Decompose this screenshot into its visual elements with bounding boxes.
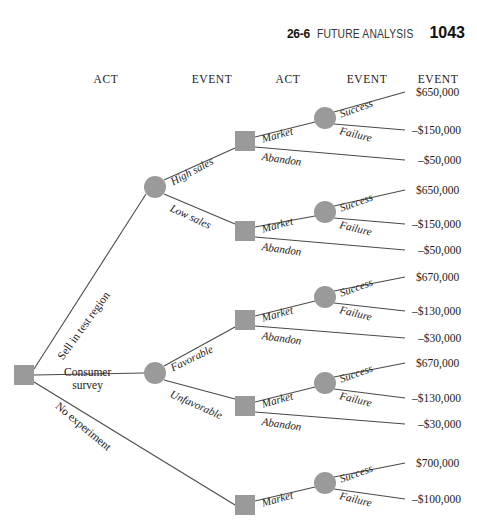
column-header-0: ACT <box>94 73 119 85</box>
node-root-act <box>14 365 34 385</box>
column-header-4: EVENT <box>418 73 459 85</box>
node-success-failure-3 <box>314 286 336 308</box>
payoff-4-0: $700,000 <box>416 457 459 469</box>
payoff-0-0: $650,000 <box>416 86 459 98</box>
payoff-0-2: –$50,000 <box>418 154 461 166</box>
column-header-3: EVENT <box>347 73 388 85</box>
node-success-failure-4 <box>314 372 336 394</box>
node-act-unfavorable <box>235 396 255 416</box>
root-branch-label-1: Consumersurvey <box>64 366 111 392</box>
payoff-1-0: $650,000 <box>416 184 459 196</box>
column-header-1: EVENT <box>192 73 233 85</box>
branch-no-experiment <box>34 382 235 505</box>
payoff-2-0: $670,000 <box>416 271 459 283</box>
node-success-failure-5 <box>314 472 336 494</box>
tree-canvas <box>0 0 477 522</box>
payoff-2-1: –$130,000 <box>412 305 461 317</box>
decision-tree-figure: 26-6 FUTURE ANALYSIS 1043 ACTEVENTACTEVE… <box>0 0 477 522</box>
payoff-3-0: $670,000 <box>416 357 459 369</box>
payoff-2-2: –$30,000 <box>418 332 461 344</box>
node-act-no-experiment <box>235 495 255 515</box>
payoff-1-1: –$150,000 <box>412 218 461 230</box>
node-act-high-sales <box>235 131 255 151</box>
node-success-failure-2 <box>314 201 336 223</box>
payoff-4-1: –$100,000 <box>412 493 461 505</box>
column-header-2: ACT <box>276 73 301 85</box>
payoff-0-1: –$150,000 <box>412 124 461 136</box>
node-success-failure-1 <box>314 107 336 129</box>
node-act-favorable <box>235 310 255 330</box>
payoff-1-2: –$50,000 <box>418 244 461 256</box>
node-act-low-sales <box>235 221 255 241</box>
payoff-3-1: –$130,000 <box>412 392 461 404</box>
branch-sell-in-test-region <box>34 194 146 369</box>
node-survey-outcome <box>144 362 166 384</box>
payoff-3-2: –$30,000 <box>418 418 461 430</box>
node-test-region-outcome <box>144 176 166 198</box>
